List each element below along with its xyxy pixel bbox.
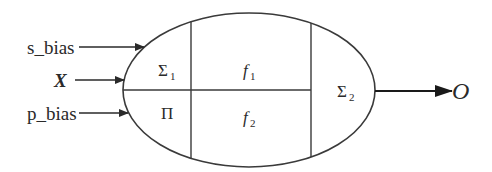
svg-text:2: 2: [250, 117, 256, 129]
x-label: X: [53, 70, 68, 91]
svg-text:1: 1: [250, 70, 256, 82]
svg-text:2: 2: [349, 91, 355, 103]
sigma1-cell: Σ 1: [158, 61, 176, 82]
p-bias-label: p_bias: [27, 103, 77, 124]
svg-text:1: 1: [170, 70, 176, 82]
output-label: O: [452, 78, 469, 104]
pi-cell: Π: [161, 104, 173, 123]
f2-cell: f 2: [243, 108, 256, 129]
svg-text:Σ: Σ: [337, 82, 347, 101]
s-bias-label: s_bias: [27, 37, 75, 58]
svg-text:f: f: [243, 108, 250, 127]
svg-text:Σ: Σ: [158, 61, 168, 80]
svg-text:Π: Π: [161, 104, 173, 123]
svg-text:f: f: [243, 61, 250, 80]
f1-cell: f 1: [243, 61, 256, 82]
sigma2-cell: Σ 2: [337, 82, 355, 103]
neuron-diagram: s_bias X p_bias Σ 1 f 1 Π f 2 Σ 2 O: [0, 0, 492, 172]
